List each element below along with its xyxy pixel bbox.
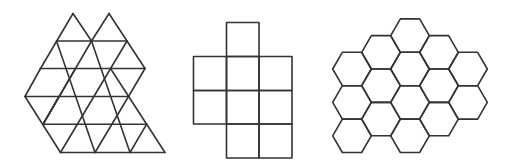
tiling-diagram <box>0 0 517 164</box>
